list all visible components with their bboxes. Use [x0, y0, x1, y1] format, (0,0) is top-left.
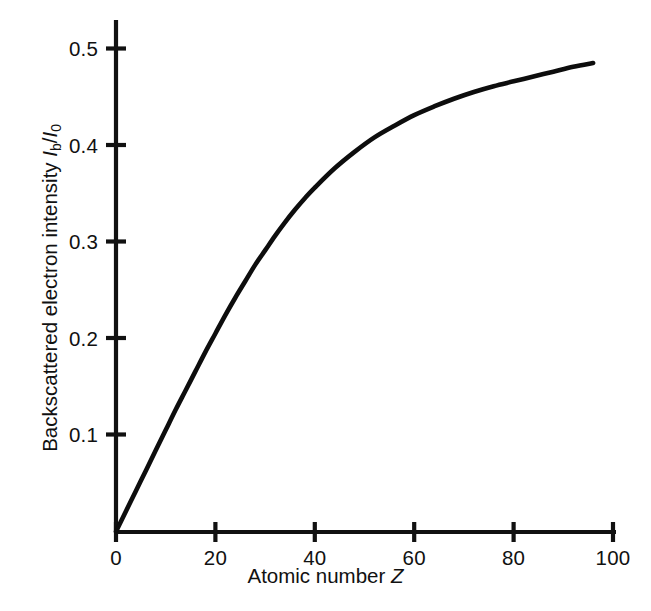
y-tick-label-0.3: 0.3 [69, 230, 98, 253]
y-axis-divider: / [38, 138, 61, 144]
x-axis-title-symbol: Z [391, 564, 404, 587]
x-axis-title-text: Atomic number [247, 564, 391, 587]
y-axis-symbol-denominator: I [38, 132, 61, 138]
y-axis-symbol-numerator: I [38, 151, 61, 157]
chart-plot-area: 0.5 0.4 0.3 0.2 0.1 0 20 40 60 80 100 [0, 0, 651, 611]
y-axis-subscript-numerator: b [48, 143, 64, 151]
y-tick-label-0.2: 0.2 [69, 327, 98, 350]
figure-container: 0.5 0.4 0.3 0.2 0.1 0 20 40 60 80 100 At… [0, 0, 651, 611]
y-axis-title: Backscattered electron intensity Ib/I0 [37, 28, 69, 548]
y-axis-tick-labels: 0.5 0.4 0.3 0.2 0.1 [69, 37, 98, 446]
y-axis-subscript-denominator: 0 [48, 124, 64, 132]
data-series-line [116, 63, 593, 532]
y-tick-label-0.1: 0.1 [69, 423, 98, 446]
y-tick-label-0.4: 0.4 [69, 134, 98, 157]
y-axis-title-text: Backscattered electron intensity [38, 157, 61, 452]
y-tick-label-0.5: 0.5 [69, 37, 98, 60]
x-axis-title: Atomic number Z [0, 563, 651, 589]
